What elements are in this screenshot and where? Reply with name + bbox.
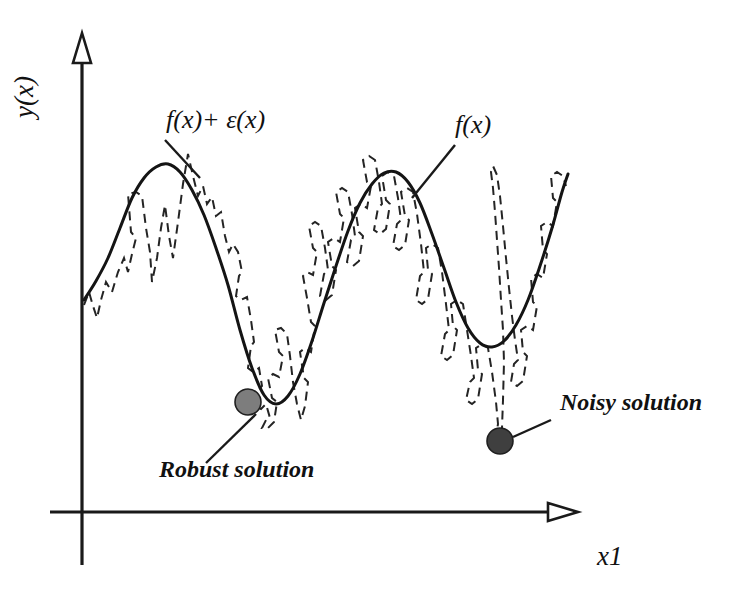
leader-line-smooth-curve-label (412, 145, 455, 198)
noisy-solution-label: Noisy solution (559, 389, 702, 415)
labels-group: y(x) x1 f(x)+ ε(x) f(x) Robust solution … (9, 76, 702, 571)
noisy-curve-label: f(x)+ ε(x) (166, 105, 265, 134)
leader-line-noisy-curve-label (165, 140, 200, 178)
y-axis-label: y(x) (9, 76, 39, 121)
robust-solution-marker[interactable] (235, 389, 261, 415)
smooth-curve-label: f(x) (455, 110, 491, 139)
curves-group (84, 154, 568, 440)
figure-canvas: y(x) x1 f(x)+ ε(x) f(x) Robust solution … (0, 0, 748, 610)
axes-group (50, 33, 578, 565)
figure-container: y(x) x1 f(x)+ ε(x) f(x) Robust solution … (0, 0, 748, 610)
robust-solution-label: Robust solution (158, 456, 314, 482)
noisy-solution-marker[interactable] (487, 428, 513, 454)
leader-line-noisy-solution-label (513, 420, 551, 437)
x-axis-label: x1 (596, 541, 622, 571)
y-axis-arrowhead-icon (73, 33, 91, 63)
markers-group (235, 389, 513, 454)
x-axis-arrowhead-icon (548, 503, 578, 521)
smooth-function-curve (84, 164, 568, 404)
